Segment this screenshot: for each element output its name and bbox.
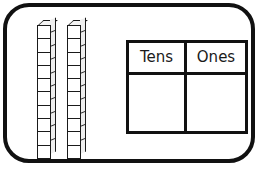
unit-cube xyxy=(38,132,50,145)
table-header-row: Tens Ones xyxy=(129,43,245,75)
tens-header-label: Tens xyxy=(140,50,173,65)
tens-answer-cell[interactable] xyxy=(129,75,187,131)
unit-cube xyxy=(68,132,80,145)
worksheet-canvas: Tens Ones xyxy=(0,0,263,171)
unit-cube xyxy=(68,92,80,105)
unit-cube xyxy=(38,79,50,92)
unit-cube xyxy=(68,79,80,92)
unit-cube xyxy=(68,106,80,119)
base-ten-rod[interactable] xyxy=(37,20,56,160)
rod-front-face xyxy=(37,25,51,159)
rounded-border-frame: Tens Ones xyxy=(3,3,255,163)
unit-cube xyxy=(38,66,50,79)
table-row xyxy=(129,75,245,131)
unit-cube xyxy=(68,26,80,39)
rod-front-face xyxy=(67,25,81,159)
unit-cube xyxy=(68,66,80,79)
unit-cube xyxy=(68,39,80,52)
ones-answer-cell[interactable] xyxy=(187,75,245,131)
table-header-tens: Tens xyxy=(129,43,187,72)
place-value-table: Tens Ones xyxy=(126,40,248,134)
unit-cube xyxy=(38,106,50,119)
unit-cube xyxy=(68,53,80,66)
unit-cube xyxy=(38,92,50,105)
ones-header-label: Ones xyxy=(197,50,235,65)
table-header-ones: Ones xyxy=(187,43,245,72)
base-ten-rod[interactable] xyxy=(67,20,86,160)
unit-cube xyxy=(38,53,50,66)
unit-cube xyxy=(38,119,50,132)
base-ten-rods-group xyxy=(33,18,103,163)
unit-cube xyxy=(38,146,50,158)
unit-cube xyxy=(68,146,80,158)
unit-cube xyxy=(38,39,50,52)
unit-cube xyxy=(68,119,80,132)
unit-cube xyxy=(38,26,50,39)
